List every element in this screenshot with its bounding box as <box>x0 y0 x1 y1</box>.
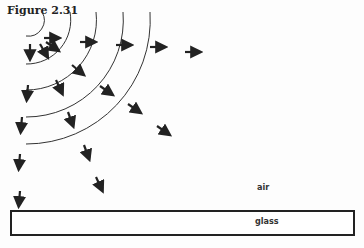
ray-arrow-icon <box>21 117 22 131</box>
wavefront-arc <box>26 12 150 144</box>
ray-arrow-icon <box>19 154 20 168</box>
ray-arrow-icon <box>27 85 28 99</box>
wavefront-arc <box>26 12 96 90</box>
ray-arrow-icon <box>72 65 83 74</box>
ray-arrow-icon <box>68 112 73 125</box>
ray-arrow-icon <box>40 44 47 56</box>
wavefront-arc <box>26 12 123 117</box>
wavefront-arcs <box>26 12 150 144</box>
ray-arrow-icon <box>157 126 169 134</box>
air-label: air <box>257 182 269 192</box>
ray-arrow-icon <box>96 177 102 190</box>
glass-slab <box>11 211 354 235</box>
figure-canvas: Figure 2.31 air glass <box>0 0 364 248</box>
ray-arrow-icon <box>128 104 140 112</box>
ray-arrow-icon <box>84 145 89 158</box>
ray-arrow-icon <box>19 191 20 205</box>
glass-label: glass <box>255 216 279 226</box>
ray-arrow-icon <box>100 86 112 94</box>
wavefront-arc <box>26 12 44 36</box>
ray-arrow-icon <box>46 42 58 50</box>
wavefront-diagram <box>0 0 364 248</box>
ray-arrows <box>19 38 199 205</box>
